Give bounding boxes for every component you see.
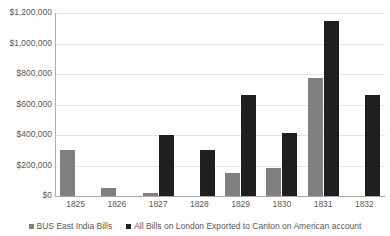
- bar-group: [179, 13, 220, 196]
- y-axis-tick-label: $1,000,000: [0, 39, 52, 48]
- bar: [225, 173, 240, 196]
- legend-swatch-icon: [29, 224, 34, 229]
- bar-group: [303, 13, 344, 196]
- legend-swatch-icon: [126, 224, 131, 229]
- bar: [324, 21, 339, 196]
- bar-group: [220, 13, 261, 196]
- bar-group: [261, 13, 302, 196]
- legend-label: BUS East India Bills: [37, 221, 113, 231]
- legend-item[interactable]: BUS East India Bills: [29, 221, 113, 231]
- bar-group: [138, 13, 179, 196]
- x-axis-tick-label: 1831: [303, 198, 344, 210]
- bar: [60, 150, 75, 196]
- y-axis-tick-label: $1,200,000: [0, 8, 52, 17]
- x-axis-tick-labels: 18251826182718281829183018311832: [55, 198, 385, 212]
- bar-group: [55, 13, 96, 196]
- bar: [159, 135, 174, 196]
- x-axis-tick-label: 1827: [138, 198, 179, 210]
- x-axis-tick-label: 1830: [261, 198, 302, 210]
- x-axis-tick-label: 1826: [96, 198, 137, 210]
- bar: [282, 133, 297, 196]
- chart-legend: BUS East India BillsAll Bills on London …: [0, 219, 390, 233]
- x-axis-tick-label: 1825: [55, 198, 96, 210]
- bar-group: [344, 13, 385, 196]
- y-axis-tick-label: $400,000: [0, 130, 52, 139]
- bar: [308, 78, 323, 196]
- x-axis-tick-label: 1829: [220, 198, 261, 210]
- bar: [365, 95, 380, 196]
- y-axis-tick-labels: $1,200,000$1,000,000$800,000$600,000$400…: [0, 0, 52, 236]
- legend-label: All Bills on London Exported to Canton o…: [134, 221, 361, 231]
- bar: [241, 95, 256, 196]
- bar: [143, 193, 158, 196]
- x-axis-line: [55, 196, 385, 197]
- bar-chart: $1,200,000$1,000,000$800,000$600,000$400…: [0, 0, 390, 236]
- x-axis-tick-label: 1828: [179, 198, 220, 210]
- bar-group: [96, 13, 137, 196]
- y-axis-tick-label: $800,000: [0, 69, 52, 78]
- y-axis-tick-label: $0: [0, 191, 52, 200]
- bar: [266, 168, 281, 196]
- y-axis-tick-label: $600,000: [0, 100, 52, 109]
- x-axis-tick-label: 1832: [344, 198, 385, 210]
- bars-layer: [55, 13, 385, 196]
- bar: [101, 188, 116, 196]
- bar: [200, 150, 215, 196]
- y-axis-tick-label: $200,000: [0, 161, 52, 170]
- legend-item[interactable]: All Bills on London Exported to Canton o…: [126, 221, 361, 231]
